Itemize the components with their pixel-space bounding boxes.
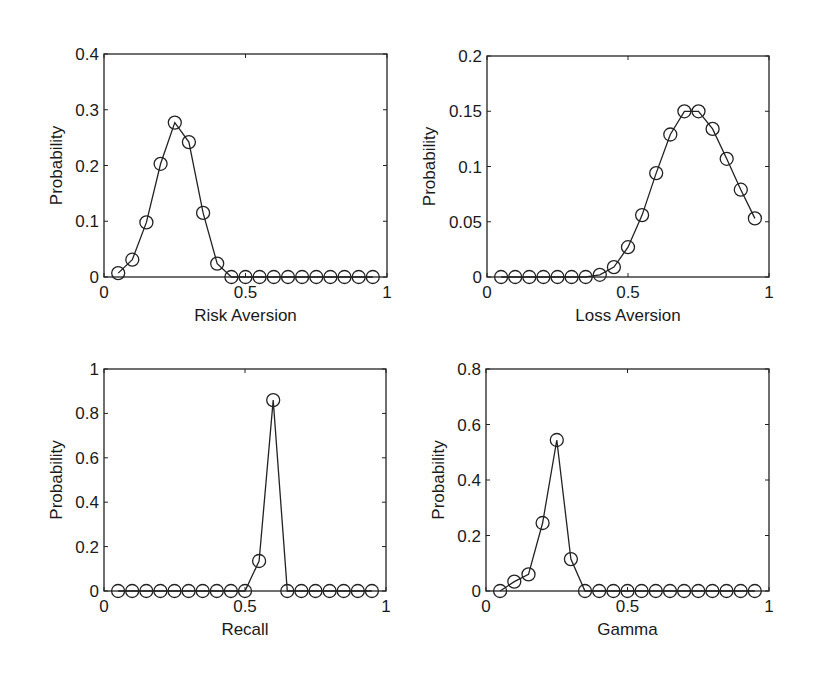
x-tick-label: 0.5: [616, 283, 640, 302]
y-tick-label: 0.1: [75, 212, 99, 231]
y-tick-label: 0.15: [449, 102, 482, 121]
y-tick-label: 0.2: [457, 527, 481, 546]
y-tick-label: 0: [473, 268, 482, 287]
y-tick-label: 0.4: [75, 493, 99, 512]
y-tick-label: 0.4: [75, 45, 99, 64]
y-axis-label: Probability: [429, 440, 448, 520]
axes-frame: [486, 369, 769, 591]
y-tick-label: 0.8: [75, 404, 99, 423]
figure: 00.5100.10.20.30.4Risk AversionProbabili…: [0, 0, 816, 682]
x-tick-label: 0.5: [233, 597, 257, 616]
x-axis-label: Risk Aversion: [194, 306, 297, 325]
y-tick-label: 0.4: [457, 471, 481, 490]
x-tick-label: 0: [99, 597, 108, 616]
x-axis-label: Recall: [221, 620, 268, 639]
subplot-recall: 00.5100.20.40.60.81RecallProbability: [47, 360, 391, 639]
axes-frame: [104, 369, 386, 591]
y-axis-label: Probability: [47, 440, 66, 520]
x-tick-label: 0.5: [234, 283, 258, 302]
x-tick-label: 0: [99, 283, 108, 302]
y-tick-label: 0.05: [449, 213, 482, 232]
y-tick-label: 1: [90, 360, 99, 379]
series-line: [500, 440, 755, 591]
y-tick-label: 0.2: [75, 157, 99, 176]
x-tick-label: 1: [764, 597, 773, 616]
y-tick-label: 0.6: [75, 449, 99, 468]
y-tick-label: 0: [90, 268, 99, 287]
x-tick-label: 0: [481, 597, 490, 616]
y-tick-label: 0.6: [457, 416, 481, 435]
x-tick-label: 0: [482, 283, 491, 302]
series-line: [118, 123, 373, 277]
y-tick-label: 0: [472, 582, 481, 601]
series-line: [118, 400, 372, 591]
x-tick-label: 1: [764, 283, 773, 302]
subplot-loss-aversion: 00.5100.050.10.150.2Loss AversionProbabi…: [420, 47, 774, 325]
y-axis-label: Probability: [420, 126, 439, 206]
y-tick-label: 0.3: [75, 101, 99, 120]
axes-frame: [487, 56, 769, 277]
x-tick-label: 1: [381, 597, 390, 616]
subplot-gamma: 00.5100.20.40.60.8GammaProbability: [429, 360, 774, 639]
y-tick-label: 0.8: [457, 360, 481, 379]
y-tick-label: 0.2: [458, 47, 482, 66]
y-axis-label: Probability: [47, 125, 66, 205]
x-axis-label: Loss Aversion: [575, 306, 681, 325]
y-tick-label: 0.1: [458, 158, 482, 177]
x-tick-label: 0.5: [616, 597, 640, 616]
x-tick-label: 1: [382, 283, 391, 302]
axes-frame: [104, 54, 387, 277]
x-axis-label: Gamma: [597, 620, 658, 639]
series-line: [501, 111, 755, 277]
y-tick-label: 0.2: [75, 538, 99, 557]
y-tick-label: 0: [90, 582, 99, 601]
subplot-risk-aversion: 00.5100.10.20.30.4Risk AversionProbabili…: [47, 45, 392, 325]
